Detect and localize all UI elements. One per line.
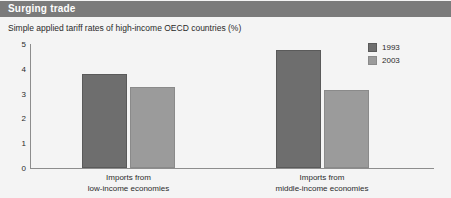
- x-axis-line: [30, 168, 434, 169]
- category-label: Imports fromlow-income economies: [39, 173, 219, 194]
- y-axis-tick-label: 2: [6, 114, 26, 123]
- y-axis-tick-labels: 012345: [0, 0, 26, 198]
- bar-1993-group1: [82, 74, 127, 168]
- legend-label: 2003: [382, 56, 400, 65]
- y-axis-line: [30, 44, 31, 169]
- plot-area: 012345 Imports fromlow-income economiesI…: [0, 0, 451, 198]
- chart-legend: 19932003: [368, 41, 400, 67]
- category-label: Imports frommiddle-income economies: [232, 173, 412, 194]
- legend-item-2003: 2003: [368, 54, 400, 67]
- legend-swatch-icon: [368, 43, 377, 52]
- y-axis-tick-label: 3: [6, 89, 26, 98]
- y-axis-tick-label: 5: [6, 40, 26, 49]
- legend-item-1993: 1993: [368, 41, 400, 54]
- category-label-line: low-income economies: [39, 184, 219, 195]
- chart-figure: Surging trade Simple applied tariff rate…: [0, 0, 451, 198]
- legend-label: 1993: [382, 43, 400, 52]
- bar-1993-group2: [276, 50, 321, 168]
- category-label-line: Imports from: [39, 173, 219, 184]
- y-axis-tick-label: 0: [6, 164, 26, 173]
- y-axis-tick-label: 4: [6, 64, 26, 73]
- y-axis-tick-label: 1: [6, 139, 26, 148]
- category-label-line: middle-income economies: [232, 184, 412, 195]
- category-label-line: Imports from: [232, 173, 412, 184]
- bar-2003-group1: [130, 87, 175, 168]
- bar-2003-group2: [324, 90, 369, 168]
- legend-swatch-icon: [368, 56, 377, 65]
